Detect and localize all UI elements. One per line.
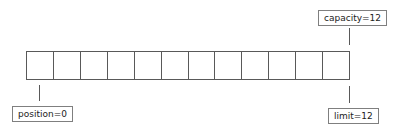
limit-label: limit=12: [328, 108, 379, 124]
buffer-cell-9: [269, 52, 296, 79]
buffer-cell-1: [54, 52, 81, 79]
buffer-cell-4: [135, 52, 162, 79]
buffer-cell-7: [215, 52, 242, 79]
position-pointer-line: [39, 85, 40, 101]
buffer-cell-3: [108, 52, 135, 79]
buffer-cell-11: [323, 52, 349, 79]
limit-pointer-line: [349, 86, 350, 103]
position-label: position=0: [12, 106, 73, 122]
buffer-cell-8: [242, 52, 269, 79]
capacity-pointer-line: [349, 28, 350, 45]
capacity-label: capacity=12: [318, 10, 387, 26]
buffer-array: [26, 51, 350, 80]
buffer-cell-10: [296, 52, 323, 79]
buffer-cell-2: [81, 52, 108, 79]
buffer-cell-0: [27, 52, 54, 79]
buffer-cell-6: [189, 52, 216, 79]
buffer-cell-5: [162, 52, 189, 79]
